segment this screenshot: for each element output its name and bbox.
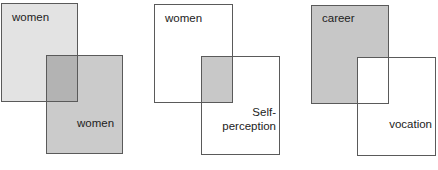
panel1-label-top: women bbox=[12, 10, 49, 24]
panel2-overlap-region bbox=[201, 56, 233, 103]
panel1-overlap-region bbox=[46, 55, 78, 102]
panel3-overlap-region bbox=[357, 57, 389, 104]
panel2-label-women: women bbox=[165, 11, 202, 25]
panel2-label-perception: perception bbox=[216, 119, 276, 133]
panel1-label-bottom: women bbox=[77, 116, 114, 130]
panel3-label-vocation: vocation bbox=[380, 117, 432, 131]
panel2-label-self: Self- bbox=[248, 105, 276, 119]
panel3-label-career: career bbox=[322, 11, 355, 25]
